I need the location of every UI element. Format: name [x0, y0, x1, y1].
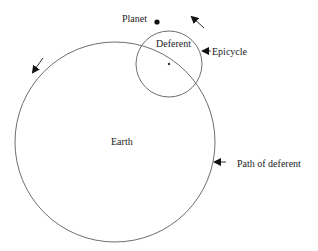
deferent-label: Deferent	[156, 38, 191, 49]
planet-dot	[154, 19, 159, 24]
earth-label: Earth	[111, 136, 133, 147]
epicycle-center-dot	[168, 63, 170, 65]
epicycle-label: Epicycle	[212, 46, 248, 57]
epicycle-rotation-arrow	[192, 17, 204, 28]
deferent-rotation-arrow	[33, 58, 43, 72]
path-of-deferent-label: Path of deferent	[237, 158, 301, 169]
epicycle-diagram: Planet Deferent Epicycle Earth Path of d…	[0, 0, 318, 251]
planet-label: Planet	[122, 13, 147, 24]
